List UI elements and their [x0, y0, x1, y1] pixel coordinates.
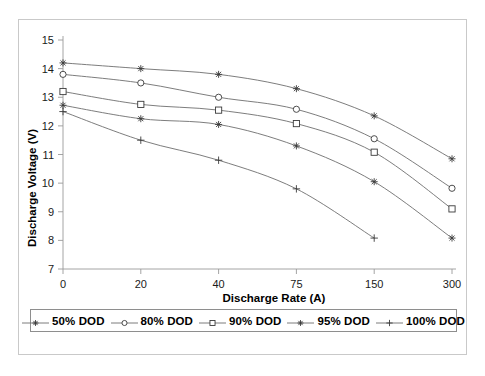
marker-star — [293, 142, 300, 149]
y-tick-label: 14 — [42, 63, 54, 75]
marker-circle — [293, 106, 299, 112]
series-line — [63, 74, 452, 188]
legend-entry-100-dod[interactable]: 100% DOD — [376, 315, 465, 327]
legend-entry-50-dod[interactable]: 50% DOD — [22, 315, 104, 327]
y-axis-title: Discharge Voltage (V) — [26, 129, 38, 247]
legend-marker-asterisk-icon — [22, 315, 49, 327]
marker-plus — [215, 157, 222, 164]
series-line — [63, 112, 374, 239]
y-tick-label: 8 — [48, 234, 54, 246]
y-tick-label: 13 — [42, 91, 54, 103]
discharge-voltage-chart: Discharge Voltage (V) Discharge Rate (A)… — [19, 20, 468, 356]
legend-label: 100% DOD — [406, 315, 465, 327]
chart-plot-area: Discharge Voltage (V) Discharge Rate (A)… — [19, 20, 468, 356]
marker-square — [216, 107, 222, 113]
marker-star — [371, 178, 378, 185]
marker-star — [215, 121, 222, 128]
marker-circle — [449, 185, 455, 191]
marker-plus — [137, 136, 144, 143]
marker-circle — [216, 94, 222, 100]
marker-star — [137, 115, 144, 122]
marker-star — [298, 320, 304, 326]
x-tick-label: 40 — [212, 278, 224, 290]
marker-asterisk — [293, 85, 300, 92]
marker-asterisk — [215, 71, 222, 78]
legend-marker-plus-icon — [376, 315, 403, 327]
marker-square — [210, 320, 215, 325]
marker-plus — [293, 185, 300, 192]
marker-plus — [59, 108, 66, 115]
marker-square — [449, 206, 455, 212]
legend-marker-circle-icon — [111, 315, 138, 327]
marker-asterisk — [60, 59, 67, 66]
y-axis-ticks: 789101112131415 — [42, 34, 63, 275]
chart-legend: 50% DOD80% DOD90% DOD95% DOD100% DOD — [30, 309, 457, 332]
series-95-dod — [60, 102, 456, 242]
legend-label: 90% DOD — [229, 315, 281, 327]
marker-plus — [386, 319, 392, 325]
marker-circle — [138, 80, 144, 86]
series-50-dod — [60, 59, 456, 162]
y-tick-label: 9 — [48, 206, 54, 218]
legend-entry-95-dod[interactable]: 95% DOD — [287, 315, 369, 327]
legend-label: 80% DOD — [141, 315, 193, 327]
marker-asterisk — [449, 155, 456, 162]
marker-asterisk — [33, 320, 39, 326]
x-tick-label: 0 — [60, 278, 66, 290]
marker-circle — [122, 320, 127, 325]
marker-square — [138, 101, 144, 107]
marker-plus — [371, 234, 378, 241]
marker-star — [60, 102, 67, 109]
marker-square — [371, 149, 377, 155]
chart-series-group — [59, 59, 455, 241]
marker-asterisk — [371, 112, 378, 119]
legend-marker-star-icon — [287, 315, 314, 327]
y-tick-label: 11 — [43, 149, 54, 161]
marker-circle — [371, 136, 377, 142]
y-tick-label: 12 — [42, 120, 54, 132]
series-line — [63, 63, 452, 159]
series-100-dod — [59, 108, 378, 242]
x-tick-label: 150 — [365, 278, 383, 290]
legend-marker-square-icon — [199, 315, 226, 327]
y-tick-label: 15 — [42, 34, 54, 46]
legend-label: 95% DOD — [317, 315, 369, 327]
x-axis-title: Discharge Rate (A) — [223, 292, 326, 304]
x-axis-ticks: 0204075150300 — [60, 269, 461, 290]
x-tick-label: 75 — [290, 278, 302, 290]
y-tick-label: 7 — [48, 263, 54, 275]
marker-asterisk — [137, 65, 144, 72]
chart-figure: Discharge Voltage (V) Discharge Rate (A)… — [18, 19, 467, 355]
marker-circle — [60, 71, 66, 77]
marker-star — [449, 235, 456, 242]
marker-square — [60, 88, 66, 94]
x-tick-label: 300 — [443, 278, 461, 290]
series-80-dod — [60, 71, 455, 191]
legend-entry-80-dod[interactable]: 80% DOD — [111, 315, 193, 327]
x-tick-label: 20 — [135, 278, 147, 290]
legend-entry-90-dod[interactable]: 90% DOD — [199, 315, 281, 327]
marker-square — [293, 120, 299, 126]
y-tick-label: 10 — [42, 177, 54, 189]
legend-label: 50% DOD — [52, 315, 104, 327]
series-90-dod — [60, 88, 455, 212]
